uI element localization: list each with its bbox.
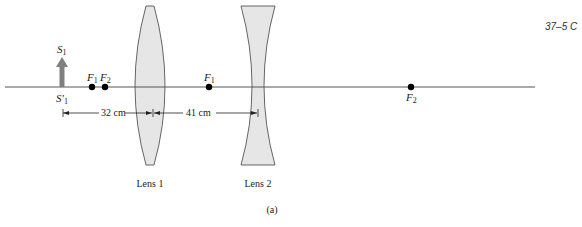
object-label-bottom: S′1 bbox=[56, 92, 68, 106]
lens1-focal-label-left: F1 bbox=[86, 71, 98, 85]
figure-id-label: 37–5 C bbox=[545, 21, 578, 32]
lens-2-shape bbox=[241, 6, 275, 165]
object-label-top: S1 bbox=[57, 43, 67, 57]
lens-1-shape bbox=[135, 6, 165, 165]
lens1-focal-label-right: F2 bbox=[99, 71, 111, 85]
lens2-focal-label-left: F1 bbox=[203, 71, 215, 85]
lens-1-label: Lens 1 bbox=[137, 178, 164, 189]
object-arrow-icon bbox=[56, 57, 68, 87]
dimension-label-41cm: 41 cm bbox=[186, 107, 211, 118]
optics-diagram: S1 S′1 F1 F2 F1 F2 32 cm 41 cm Lens 1 Le… bbox=[0, 0, 582, 227]
figure-caption: (a) bbox=[266, 204, 277, 216]
lens2-focal-point-right bbox=[408, 84, 414, 90]
lens-2-label: Lens 2 bbox=[245, 178, 272, 189]
dimension-label-32cm: 32 cm bbox=[101, 107, 126, 118]
lens2-focal-label-right: F2 bbox=[405, 91, 417, 105]
